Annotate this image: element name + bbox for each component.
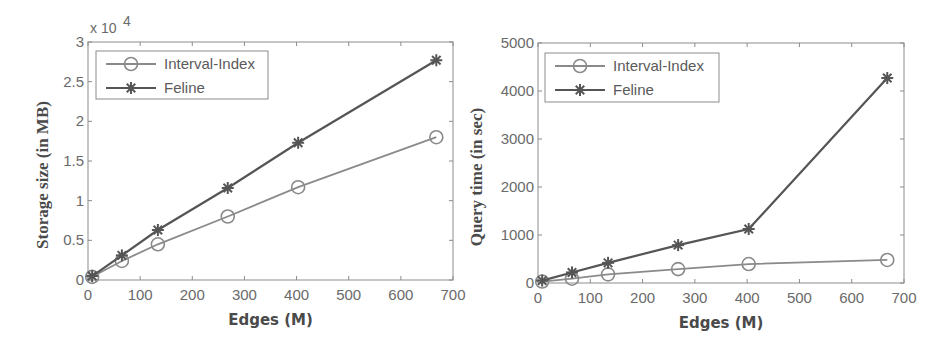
y-tick-label: 3 (76, 33, 84, 50)
x-tick-label: 600 (388, 286, 413, 303)
legend-label: Feline (164, 79, 205, 96)
y-axis-label: Query time (in sec) (467, 108, 486, 246)
x-tick-label: 100 (128, 286, 153, 303)
y-tick-label: 2000 (501, 178, 534, 195)
y-tick-label: 2.5 (63, 73, 84, 90)
x-tick-label: 0 (84, 286, 92, 303)
y-tick-label: 0 (76, 271, 84, 288)
x-tick-label: 500 (787, 289, 812, 306)
legend-label: Interval-Index (164, 55, 255, 72)
y-tick-label: 4000 (501, 82, 534, 99)
data-point-asterisk (881, 72, 893, 84)
data-point-asterisk (536, 275, 548, 287)
x-tick-label: 700 (891, 289, 916, 306)
legend-label: Interval-Index (613, 57, 704, 74)
x-tick-label: 400 (284, 286, 309, 303)
series-line (542, 260, 887, 282)
x-tick-label: 100 (578, 289, 603, 306)
x-axis-label: Edges (M) (679, 314, 764, 332)
chart-storage-size: 010020030040050060070000.511.522.53x 104… (33, 13, 466, 329)
legend-entry: Interval-Index (555, 57, 704, 74)
data-point-asterisk (222, 182, 234, 194)
legend-marker-asterisk (125, 82, 137, 94)
y-multiplier-label: x 10 (90, 20, 117, 36)
x-tick-label: 0 (534, 289, 542, 306)
data-point-asterisk (292, 137, 304, 149)
y-axis-label: Storage size (in MB) (33, 101, 52, 249)
legend: Interval-IndexFeline (545, 53, 719, 102)
data-point-asterisk (672, 239, 684, 251)
y-tick-label: 0 (526, 274, 534, 291)
series-interval-index (86, 131, 443, 284)
y-tick-label: 1000 (501, 226, 534, 243)
y-tick-label: 1 (76, 192, 84, 209)
data-point-asterisk (743, 223, 755, 235)
x-tick-label: 300 (682, 289, 707, 306)
data-point-asterisk (602, 257, 614, 269)
x-tick-label: 200 (180, 286, 205, 303)
series-feline (536, 72, 893, 287)
y-tick-label: 5000 (501, 34, 534, 51)
x-tick-label: 700 (440, 286, 465, 303)
x-axis-label: Edges (M) (228, 311, 313, 329)
figure: 010020030040050060070000.511.522.53x 104… (0, 0, 950, 354)
data-point-asterisk (430, 54, 442, 66)
y-tick-label: 2 (76, 112, 84, 129)
data-point-asterisk (152, 224, 164, 236)
x-tick-label: 600 (839, 289, 864, 306)
legend-marker-asterisk (574, 84, 586, 96)
y-tick-label: 3000 (501, 130, 534, 147)
x-tick-label: 400 (735, 289, 760, 306)
legend-entry: Interval-Index (106, 55, 255, 72)
x-tick-label: 500 (336, 286, 361, 303)
data-point-asterisk (566, 266, 578, 278)
y-tick-label: 1.5 (63, 152, 84, 169)
legend-label: Feline (613, 81, 654, 98)
y-multiplier-exponent: 4 (123, 13, 131, 29)
y-tick-label: 0.5 (63, 231, 84, 248)
data-point-asterisk (86, 270, 98, 282)
legend: Interval-IndexFeline (96, 51, 268, 99)
chart-query-time: 0100200300400500600700010002000300040005… (467, 34, 917, 332)
series-line (92, 137, 436, 277)
series-line (542, 78, 887, 281)
x-tick-label: 300 (232, 286, 257, 303)
data-point-asterisk (116, 249, 128, 261)
x-tick-label: 200 (630, 289, 655, 306)
